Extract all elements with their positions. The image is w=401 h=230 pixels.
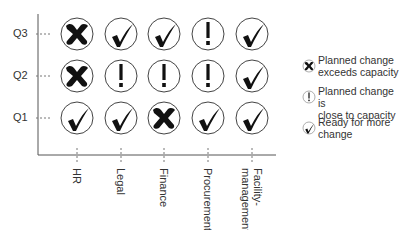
legend-exceeds-line1: Planned change (318, 54, 401, 66)
check-icon (112, 24, 133, 47)
y-label-q3: Q3 (13, 27, 28, 39)
exclamation-icon (119, 64, 123, 87)
x-label-legal: Legal (115, 168, 127, 195)
exclamation-icon (162, 64, 166, 87)
y-label-q2: Q2 (13, 69, 28, 81)
x-label-hr: HR (71, 168, 83, 184)
legend-ready-line2: change (318, 128, 401, 140)
legend-cross-icon (303, 60, 315, 72)
cross-icon (66, 66, 88, 87)
cross-icon (153, 108, 175, 129)
y-label-q1: Q1 (13, 111, 28, 123)
check-icon (243, 24, 264, 47)
x-label-facility-management: Facility- management (240, 168, 264, 230)
legend-ready: Ready for more change (318, 116, 401, 140)
check-icon (68, 108, 89, 131)
x-label-finance: Finance (158, 168, 170, 207)
check-icon (199, 108, 220, 131)
check-icon (155, 24, 176, 47)
exclamation-icon (206, 64, 210, 87)
legend-ready-line1: Ready for more (318, 116, 401, 128)
x-label-procurement: Procurement (202, 168, 214, 230)
legend-exceeds-line2: exceeds capacity (318, 66, 401, 78)
legend-close-line1: Planned change is (318, 85, 401, 109)
legend-check-icon (303, 122, 315, 134)
cross-icon (66, 24, 88, 45)
legend-exceeds: Planned change exceeds capacity (318, 54, 401, 78)
check-icon (243, 66, 264, 89)
exclamation-icon (206, 22, 210, 45)
check-icon (112, 108, 133, 131)
legend-exclamation-icon (303, 91, 315, 103)
check-icon (243, 108, 264, 131)
